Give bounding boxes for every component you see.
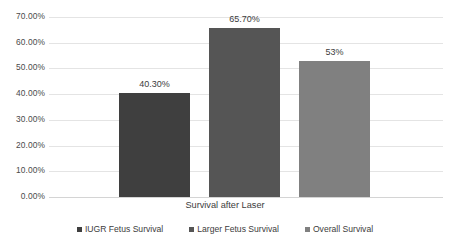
legend-swatch-icon bbox=[305, 227, 310, 232]
y-axis-tick-label: 60.00% bbox=[0, 38, 45, 47]
y-axis-tick-label: 40.00% bbox=[0, 89, 45, 98]
y-axis-tick-label: 30.00% bbox=[0, 115, 45, 124]
plot-area: 40.30%65.70%53% bbox=[49, 17, 443, 197]
legend-item[interactable]: Larger Fetus Survival bbox=[189, 224, 279, 234]
legend-item-label: Overall Survival bbox=[313, 224, 373, 234]
legend-swatch-icon bbox=[77, 227, 82, 232]
bar-overall-survival bbox=[299, 61, 370, 197]
legend-item[interactable]: IUGR Fetus Survival bbox=[77, 224, 163, 234]
bar-value-label: 65.70% bbox=[209, 14, 280, 24]
legend-item-label: IUGR Fetus Survival bbox=[85, 224, 163, 234]
bar-chart: 0.00%10.00%20.00%30.00%40.00%50.00%60.00… bbox=[0, 0, 450, 239]
chart-legend: IUGR Fetus SurvivalLarger Fetus Survival… bbox=[0, 224, 450, 234]
y-axis-tick-label: 50.00% bbox=[0, 63, 45, 72]
legend-item[interactable]: Overall Survival bbox=[305, 224, 373, 234]
y-axis-tick-label: 20.00% bbox=[0, 141, 45, 150]
bar-larger-fetus-survival bbox=[209, 28, 280, 197]
gridline bbox=[49, 197, 443, 198]
bar-iugr-fetus-survival bbox=[119, 93, 190, 197]
bar-value-label: 53% bbox=[299, 47, 370, 57]
bar-value-label: 40.30% bbox=[119, 79, 190, 89]
y-axis-tick-label: 70.00% bbox=[0, 12, 45, 21]
y-axis-tick-label: 10.00% bbox=[0, 166, 45, 175]
legend-swatch-icon bbox=[189, 227, 194, 232]
legend-item-label: Larger Fetus Survival bbox=[197, 224, 279, 234]
x-axis-category-label: Survival after Laser bbox=[0, 200, 450, 211]
